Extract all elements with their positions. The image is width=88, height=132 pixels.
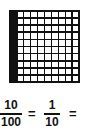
grid-cell [59, 12, 64, 18]
grid-cell [24, 69, 29, 75]
grid-cell [59, 47, 64, 53]
grid-cell-shaded [11, 54, 16, 60]
grid-cell [18, 69, 23, 75]
grid-cell [24, 62, 29, 68]
grid-cell [59, 69, 64, 75]
grid-cell [45, 19, 50, 25]
grid-cell [73, 62, 78, 68]
grid-cell-shaded [11, 19, 16, 25]
grid-cell [45, 62, 50, 68]
grid-cell [52, 33, 57, 39]
grid-cell [73, 12, 78, 18]
denominator: 100 [0, 116, 22, 128]
grid-cell [52, 26, 57, 32]
equation: 10 100 = 1 10 = [0, 99, 88, 132]
grid-cell [24, 54, 29, 60]
grid-cell [45, 12, 50, 18]
grid-cell [18, 33, 23, 39]
grid-cell [24, 33, 29, 39]
grid-cell [38, 54, 43, 60]
grid-cell [24, 26, 29, 32]
grid-cell [59, 54, 64, 60]
grid-cell [73, 76, 78, 82]
grid-cell [38, 33, 43, 39]
grid-cell [66, 26, 71, 32]
grid-cell [31, 47, 36, 53]
grid-cell [24, 76, 29, 82]
grid-cell [73, 26, 78, 32]
grid-cell [18, 40, 23, 46]
grid-cell [24, 19, 29, 25]
grid-cell [45, 26, 50, 32]
grid-cell [59, 76, 64, 82]
grid-cell-shaded [11, 12, 16, 18]
grid-cell [52, 62, 57, 68]
grid-cell [73, 54, 78, 60]
grid-cell [45, 69, 50, 75]
denominator: 10 [44, 116, 60, 128]
grid-cell [66, 12, 71, 18]
grid-cell [38, 76, 43, 82]
grid-cell [18, 19, 23, 25]
grid-cell [66, 69, 71, 75]
grid-cell [52, 47, 57, 53]
fraction-one-tenth: 1 10 [44, 99, 60, 128]
grid-cell [66, 76, 71, 82]
grid-cell [18, 26, 23, 32]
grid-cell [31, 12, 36, 18]
grid-cell-shaded [11, 47, 16, 53]
grid-cell [31, 19, 36, 25]
grid-cell [52, 54, 57, 60]
grid-cell [31, 33, 36, 39]
grid-cell [31, 62, 36, 68]
grid-cell [66, 33, 71, 39]
grid-cell [66, 40, 71, 46]
grid-cell [18, 54, 23, 60]
grid-cell [38, 62, 43, 68]
fraction-ten-hundredths: 10 100 [0, 99, 22, 128]
grid-cell [18, 62, 23, 68]
hundred-grid [9, 10, 80, 83]
grid-cell [18, 47, 23, 53]
grid-cell [66, 54, 71, 60]
grid-cell [45, 76, 50, 82]
grid-cell [38, 12, 43, 18]
grid-cell [24, 47, 29, 53]
grid-cell-shaded [11, 40, 16, 46]
grid-cell [52, 12, 57, 18]
grid-cell [38, 40, 43, 46]
grid-cell [18, 76, 23, 82]
grid-cell [45, 40, 50, 46]
numerator: 1 [44, 99, 60, 111]
grid-cell [73, 69, 78, 75]
grid-cell-shaded [11, 62, 16, 68]
grid-cell [31, 76, 36, 82]
grid-cell-shaded [11, 26, 16, 32]
grid-cell [59, 19, 64, 25]
numerator: 10 [0, 99, 22, 111]
grid-cell [18, 12, 23, 18]
grid-cell [52, 19, 57, 25]
grid-cell [66, 19, 71, 25]
grid-cell [45, 33, 50, 39]
grid-cell [38, 26, 43, 32]
grid-cell-shaded [11, 33, 16, 39]
grid-cell [31, 69, 36, 75]
grid-cell [45, 47, 50, 53]
grid-cell [24, 40, 29, 46]
grid-cell [31, 54, 36, 60]
grid-cell [73, 47, 78, 53]
grid-cell [45, 54, 50, 60]
equals-sign: = [28, 106, 36, 121]
grid-cell-shaded [11, 69, 16, 75]
grid-cell [31, 26, 36, 32]
grid-cell [59, 40, 64, 46]
grid-cell [24, 12, 29, 18]
grid-cell [66, 62, 71, 68]
grid-cell [52, 40, 57, 46]
grid-cell [73, 19, 78, 25]
grid-cell [52, 69, 57, 75]
grid-cell [31, 40, 36, 46]
grid-cell [73, 40, 78, 46]
grid-cell [59, 26, 64, 32]
